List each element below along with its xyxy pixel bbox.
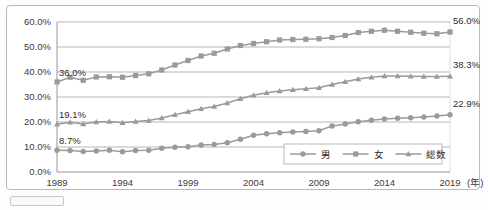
data-point-男-2005: [264, 131, 269, 136]
data-point-女-2004: [251, 41, 256, 46]
legend-label-女: 女: [374, 149, 384, 160]
data-point-女-2010: [330, 35, 335, 40]
data-point-男-2014: [382, 116, 387, 121]
x-axis-unit-label: (年): [467, 177, 483, 188]
data-point-男-2007: [290, 129, 295, 134]
data-point-男-1995: [133, 148, 138, 153]
data-point-女-2000: [199, 53, 204, 58]
data-point-女-2005: [264, 39, 269, 44]
data-point-男-2006: [277, 130, 282, 135]
data-point-男-2010: [329, 123, 334, 128]
x-tick-label: 1999: [177, 177, 198, 188]
x-tick-label: 2014: [374, 177, 395, 188]
x-axis-tick-labels: 1989199419992004200920142019(年): [46, 177, 483, 188]
data-point-男-2004: [251, 133, 256, 138]
line-chart: 0.0%10.0%20.0%30.0%40.0%50.0%60.0% 19891…: [0, 0, 488, 210]
x-tick-label: 2019: [439, 177, 460, 188]
data-point-男-2016: [408, 115, 413, 120]
data-point-男-2019: [447, 112, 452, 117]
data-point-女-2007: [290, 37, 295, 42]
data-point-女-2001: [212, 51, 217, 56]
legend-label-総数: 総数: [426, 149, 446, 160]
data-point-女-2018: [434, 31, 439, 36]
chart-canvas: 0.0%10.0%20.0%30.0%40.0%50.0%60.0% 19891…: [0, 0, 488, 210]
data-point-女-2009: [316, 36, 321, 41]
y-tick-label: 40.0%: [24, 66, 51, 77]
data-point-男-2008: [303, 129, 308, 134]
data-point-男-2000: [198, 142, 203, 147]
data-point-男-1998: [172, 145, 177, 150]
y-tick-label: 10.0%: [24, 141, 51, 152]
data-point-男-1996: [146, 148, 151, 153]
data-point-男-1997: [159, 146, 164, 151]
data-point-男-2017: [421, 114, 426, 119]
data-point-女-1999: [185, 58, 190, 63]
data-point-男-2009: [316, 128, 321, 133]
x-tick-label: 1989: [46, 177, 67, 188]
data-point-男-2001: [212, 142, 217, 147]
data-point-男-1989: [54, 148, 59, 153]
data-point-女-2012: [356, 30, 361, 35]
y-tick-label: 60.0%: [24, 16, 51, 27]
data-point-女-1989: [54, 79, 59, 84]
x-tick-label: 2009: [308, 177, 329, 188]
data-point-女-2016: [408, 30, 413, 35]
chart-legend[interactable]: 男女総数: [284, 144, 446, 164]
data-point-女-1992: [94, 74, 99, 79]
series-line-女: [57, 30, 450, 82]
data-label-start-総数: 19.1%: [59, 109, 86, 120]
data-point-男-1992: [94, 148, 99, 153]
x-tick-label: 2004: [243, 177, 264, 188]
data-point-男-1994: [120, 149, 125, 154]
data-point-女-2002: [225, 46, 230, 51]
data-label-start-女: 36.0%: [59, 67, 86, 78]
data-point-男-1991: [81, 149, 86, 154]
y-tick-label: 30.0%: [24, 91, 51, 102]
data-point-男-1999: [185, 144, 190, 149]
data-point-男-2011: [343, 121, 348, 126]
y-tick-label: 50.0%: [24, 41, 51, 52]
data-point-女-2008: [303, 37, 308, 42]
legend-label-男: 男: [321, 149, 331, 160]
legend-marker-女: [353, 151, 358, 156]
page-root: 0.0%10.0%20.0%30.0%40.0%50.0%60.0% 19891…: [0, 0, 488, 210]
series-line-総数: [57, 76, 450, 124]
data-point-女-2017: [421, 31, 426, 36]
data-point-男-2018: [434, 113, 439, 118]
data-point-女-1998: [172, 62, 177, 67]
data-point-女-2013: [369, 29, 374, 34]
data-point-男-1993: [107, 148, 112, 153]
data-labels: 8.7%22.9%36.0%56.0%19.1%38.3%: [59, 15, 480, 146]
data-point-男-2013: [369, 118, 374, 123]
data-point-女-1996: [146, 71, 151, 76]
legend-marker-男: [300, 151, 305, 156]
data-label-end-男: 22.9%: [453, 98, 480, 109]
x-tick-label: 1994: [112, 177, 133, 188]
data-point-女-2006: [277, 37, 282, 42]
data-point-男-2002: [225, 140, 230, 145]
data-label-end-総数: 38.3%: [453, 59, 480, 70]
data-label-start-男: 8.7%: [59, 135, 81, 146]
data-label-end-女: 56.0%: [453, 15, 480, 26]
data-point-女-2011: [343, 33, 348, 38]
data-point-女-2015: [395, 29, 400, 34]
data-point-女-2003: [238, 43, 243, 48]
data-point-女-1991: [81, 78, 86, 83]
data-point-女-1997: [159, 67, 164, 72]
data-point-男-1990: [67, 148, 72, 153]
data-point-男-2015: [395, 116, 400, 121]
y-tick-label: 0.0%: [29, 166, 51, 177]
data-point-女-2014: [382, 28, 387, 33]
data-point-男-2012: [356, 119, 361, 124]
data-point-女-1995: [133, 73, 138, 78]
data-point-男-2003: [238, 137, 243, 142]
y-axis-tick-labels: 0.0%10.0%20.0%30.0%40.0%50.0%60.0%: [24, 16, 51, 177]
data-point-女-2019: [447, 29, 452, 34]
data-point-女-1993: [107, 74, 112, 79]
data-point-女-1994: [120, 75, 125, 80]
y-tick-label: 20.0%: [24, 116, 51, 127]
